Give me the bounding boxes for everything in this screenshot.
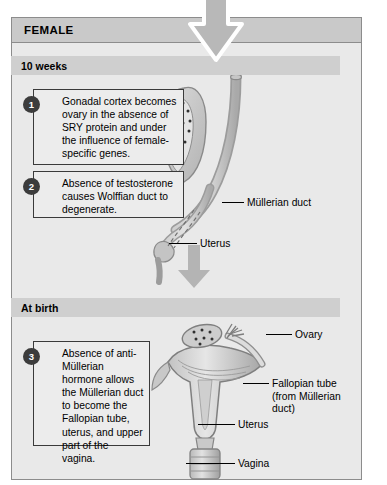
label-ovary: Ovary [295,329,322,342]
callout-box-3: 3 Absence of anti-Müllerian hormone allo… [33,341,150,446]
callout-text-2: Absence of testosterone causes Wolffian … [62,177,178,216]
callout-badge-1: 1 [23,96,40,113]
label-mullerian-duct: Müllerian duct [247,197,311,210]
section-label-at-birth: At birth [21,302,58,314]
label-uterus-at-birth: Uterus [238,419,268,432]
callout-box-2: 2 Absence of testosterone causes Wolffia… [33,171,184,218]
callout-badge-3: 3 [23,348,40,365]
callout-text-1: Gonadal cortex becomes ovary in the abse… [62,95,178,160]
panel-title: FEMALE [24,24,74,36]
top-caption-sliver [30,0,170,9]
leader-line-uterus-at-birth [198,424,235,425]
callout-badge-2: 2 [23,178,40,195]
leader-line-ovary [266,334,292,335]
label-uterus-ten-weeks: Uterus [200,238,230,251]
callout-text-3: Absence of anti-Müllerian hormone allows… [62,347,144,465]
section-label-ten-weeks: 10 weeks [21,60,67,72]
at-birth-anatomy-illustration [150,320,280,480]
callout-box-1: 1 Gonadal cortex becomes ovary in the ab… [33,89,184,165]
figure-canvas: FEMALE [0,0,387,485]
transition-arrow-down [177,245,211,289]
entry-arrow-down [176,0,250,64]
leader-line-fallopian-tube [243,383,269,384]
leader-line-uterus-ten-weeks [169,243,197,244]
section-header-at-birth: At birth [11,298,340,317]
leader-line-mullerian-duct [222,202,244,203]
label-fallopian-tube: Fallopian tube (from Müllerian duct) [272,378,341,416]
label-vagina: Vagina [238,458,269,471]
leader-line-vagina [186,463,235,464]
